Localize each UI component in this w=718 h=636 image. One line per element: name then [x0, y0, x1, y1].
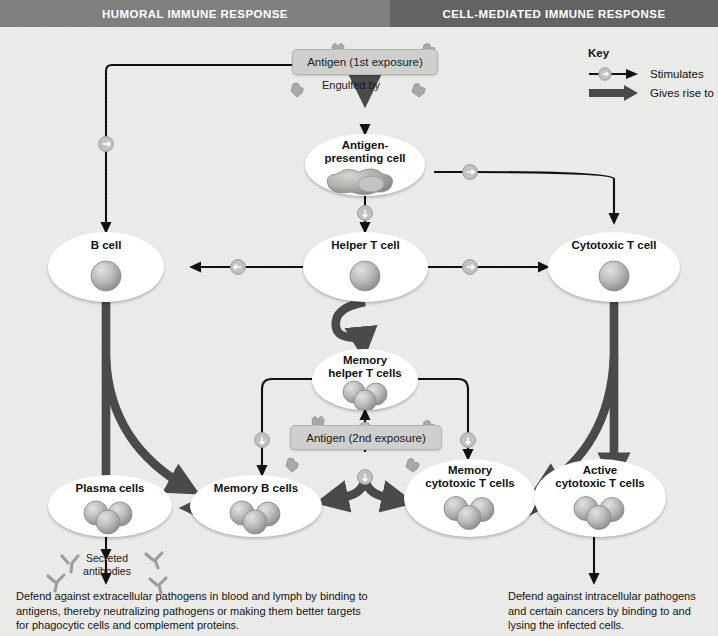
key-legend: Key Stimulates Gives rise to: [588, 47, 714, 102]
antigen-second-label: Antigen (2nd exposure): [306, 432, 426, 444]
memory-cyto-art: [404, 490, 536, 537]
caption-humoral: Defend against extracellular pathogens i…: [16, 589, 374, 633]
memory-helper-label-line1: Memory: [343, 354, 387, 366]
stimulates-icon: [588, 66, 640, 82]
header-label-humoral: HUMORAL IMMUNE RESPONSE: [102, 8, 288, 20]
antigen-second-exposure[interactable]: Antigen (2nd exposure): [290, 425, 442, 450]
memory-b-cells-label: Memory B cells: [214, 482, 298, 495]
b-cell-art: [48, 252, 164, 302]
key-label-gives-rise-to: Gives rise to: [650, 87, 714, 99]
memory-cyto-label-line1: Memory: [448, 464, 492, 476]
antigen-first-exposure[interactable]: Antigen (1st exposure): [292, 49, 438, 75]
gives-rise-to-icon: [588, 84, 640, 102]
engulfed-by-label: Engulfed by: [322, 79, 380, 91]
node-antigen-presenting-cell[interactable]: Antigen- presenting cell: [305, 134, 425, 196]
secreted-line2: antibodies: [83, 565, 131, 577]
active-cyto-label-line1: Active: [583, 464, 618, 476]
immune-response-diagram: HUMORAL IMMUNE RESPONSE CELL-MEDIATED IM…: [0, 0, 718, 636]
memory-helper-art: [312, 380, 418, 410]
key-title: Key: [588, 47, 714, 59]
header-bands: HUMORAL IMMUNE RESPONSE CELL-MEDIATED IM…: [0, 0, 718, 27]
key-label-stimulates: Stimulates: [650, 68, 704, 80]
node-plasma-cells[interactable]: Plasma cells: [48, 475, 172, 537]
memory-cyto-label-line2: cytotoxic T cells: [425, 477, 514, 489]
plasma-cells-art: [48, 495, 172, 537]
antigen-first-label: Antigen (1st exposure): [307, 56, 423, 68]
node-helper-t-cell[interactable]: Helper T cell: [303, 232, 428, 302]
key-row-gives-rise-to: Gives rise to: [588, 83, 714, 102]
key-row-stimulates: Stimulates: [588, 64, 714, 83]
header-band-humoral: HUMORAL IMMUNE RESPONSE: [0, 0, 390, 27]
cytotoxic-t-art: [548, 252, 680, 302]
caption-cell-mediated: Defend against intracellular pathogens a…: [508, 589, 716, 633]
node-b-cell[interactable]: B cell: [48, 232, 164, 302]
memory-helper-label-line2: helper T cells: [328, 367, 402, 379]
active-cyto-label-line2: cytotoxic T cells: [555, 477, 644, 489]
node-active-cytotoxic-t-cells[interactable]: Active cytotoxic T cells: [534, 459, 666, 537]
header-band-cell-mediated: CELL-MEDIATED IMMUNE RESPONSE: [390, 0, 718, 27]
node-memory-cytotoxic-t-cells[interactable]: Memory cytotoxic T cells: [404, 459, 536, 537]
apc-cell-art: [305, 165, 425, 199]
secreted-antibodies-label: Secreted antibodies: [68, 552, 146, 577]
header-label-cell-mediated: CELL-MEDIATED IMMUNE RESPONSE: [442, 8, 665, 20]
diagram-canvas: Antigen- presenting cell B cell Helper T…: [0, 27, 718, 636]
active-cyto-art: [534, 490, 666, 537]
node-memory-helper-t-cells[interactable]: Memory helper T cells: [312, 349, 418, 410]
outcome-connectors: [106, 537, 594, 583]
apc-label-line1: Antigen-: [342, 139, 389, 151]
plasma-cells-label: Plasma cells: [75, 482, 144, 495]
connector-layer: [0, 27, 718, 636]
helper-t-label: Helper T cell: [331, 239, 399, 252]
cytotoxic-t-label: Cytotoxic T cell: [572, 239, 657, 252]
node-cytotoxic-t-cell[interactable]: Cytotoxic T cell: [548, 232, 680, 302]
b-cell-label: B cell: [91, 239, 122, 252]
memory-b-cells-art: [190, 495, 322, 537]
node-memory-b-cells[interactable]: Memory B cells: [190, 475, 322, 537]
helper-t-art: [303, 252, 428, 302]
secreted-line1: Secreted: [86, 552, 128, 564]
apc-label-line2: presenting cell: [324, 152, 405, 164]
